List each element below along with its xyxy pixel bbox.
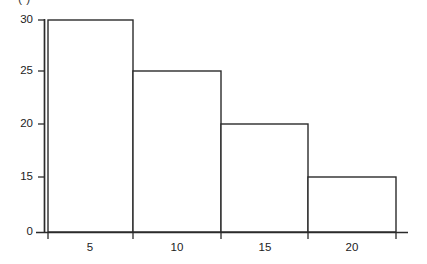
y-tick-label-0: 0 xyxy=(27,225,33,237)
x-tick-label-15: 15 xyxy=(259,241,272,253)
y-axis-ticks xyxy=(38,20,44,177)
bar-bin-2 xyxy=(133,71,221,232)
y-tick-label-15: 15 xyxy=(20,170,33,182)
y-axis-tick-labels: 30 25 20 15 0 xyxy=(20,13,33,237)
y-tick-label-30: 30 xyxy=(20,13,33,25)
bar-series xyxy=(48,20,396,232)
x-tick-label-10: 10 xyxy=(171,241,184,253)
histogram-chart: ( ) 30 25 20 15 0 xyxy=(0,0,427,264)
bar-bin-3 xyxy=(221,124,308,232)
x-tick-label-20: 20 xyxy=(346,241,359,253)
x-axis-tick-labels: 5 10 15 20 xyxy=(87,241,359,253)
bar-bin-1 xyxy=(48,20,133,232)
y-tick-label-25: 25 xyxy=(20,64,33,76)
y-tick-label-20: 20 xyxy=(20,117,33,129)
bar-bin-4 xyxy=(308,177,396,232)
x-tick-label-5: 5 xyxy=(87,241,93,253)
plot-area: 30 25 20 15 0 5 10 15 20 xyxy=(0,0,427,264)
